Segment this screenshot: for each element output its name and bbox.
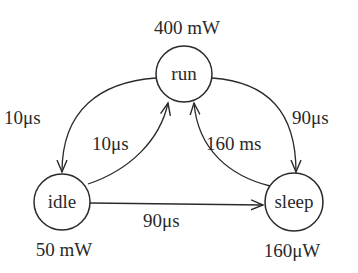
transition-sleep-run-label: 160 ms — [206, 133, 261, 154]
transition-run-sleep-label: 90μs — [292, 107, 329, 128]
state-sleep: sleep — [265, 173, 323, 231]
transition-run-sleep — [212, 78, 296, 172]
state-run-label: run — [171, 63, 197, 84]
transition-run-idle — [62, 78, 156, 172]
transition-idle-sleep-label: 90μs — [143, 210, 180, 231]
transition-idle-sleep — [90, 203, 263, 205]
state-run: run — [156, 46, 212, 102]
state-sleep-label: sleep — [274, 191, 313, 212]
power-state-diagram: run 400 mW idle 50 mW sleep 160μW 10μs 1… — [0, 0, 358, 273]
state-sleep-power: 160μW — [264, 240, 321, 261]
state-idle-label: idle — [48, 191, 77, 212]
transition-run-idle-label: 10μs — [4, 107, 41, 128]
state-run-power: 400 mW — [154, 17, 220, 38]
transition-idle-run-label: 10μs — [92, 133, 129, 154]
state-idle: idle — [34, 174, 90, 230]
state-idle-power: 50 mW — [36, 239, 93, 260]
